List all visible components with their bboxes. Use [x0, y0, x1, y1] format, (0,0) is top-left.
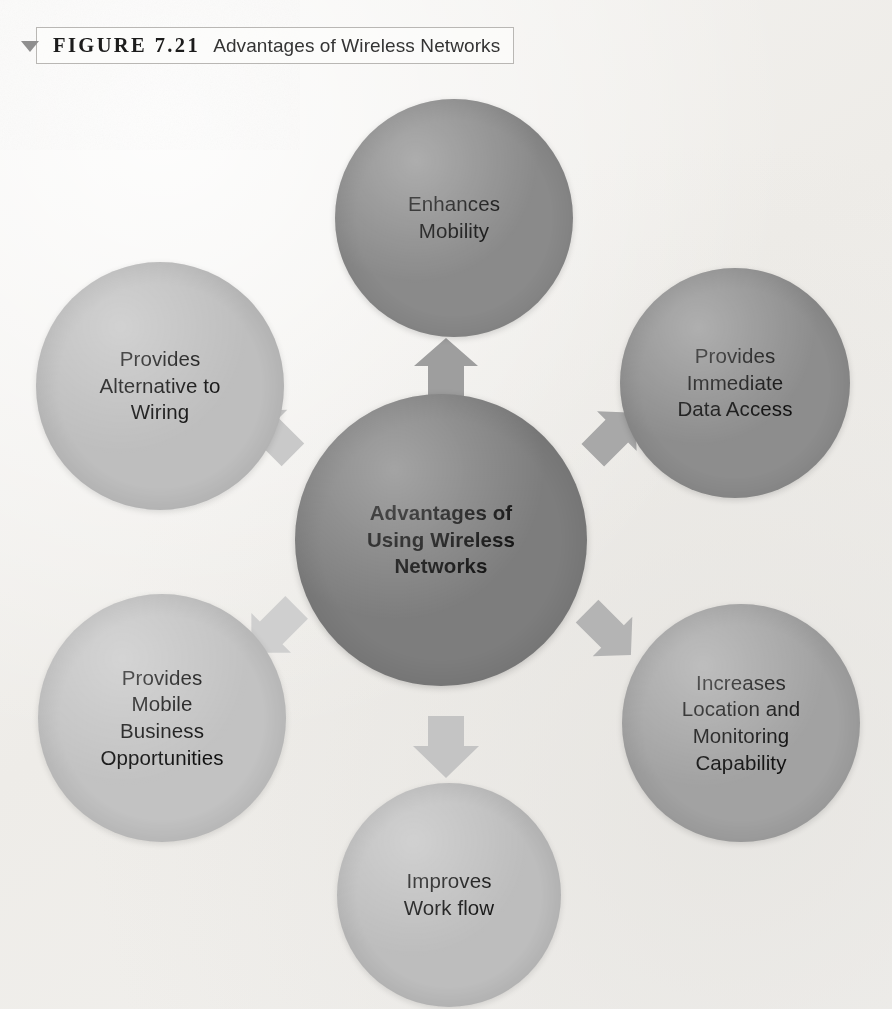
node-label: Advantages of Using Wireless Networks — [361, 500, 521, 580]
figure-page: FIGURE 7.21 Advantages of Wireless Netwo… — [0, 0, 892, 1009]
node-label: Provides Immediate Data Access — [671, 343, 798, 423]
node-enhances-mobility[interactable]: Enhances Mobility — [335, 99, 573, 337]
triangle-down-icon — [21, 41, 39, 52]
node-label: Provides Alternative to Wiring — [93, 346, 226, 426]
node-label: Improves Work flow — [398, 868, 501, 921]
node-provides-immediate-data-access[interactable]: Provides Immediate Data Access — [620, 268, 850, 498]
node-label: Enhances Mobility — [402, 191, 506, 244]
arrow-down-icon — [409, 712, 483, 780]
radial-diagram: Provides Alternative to Wiring Enhances … — [0, 0, 892, 1009]
node-label: Increases Location and Monitoring Capabi… — [676, 670, 807, 777]
node-center-advantages-of-using-wireless-networks[interactable]: Advantages of Using Wireless Networks — [295, 394, 587, 686]
node-label: Provides Mobile Business Opportunities — [94, 665, 229, 772]
arrow-up-icon — [412, 336, 480, 398]
arrow-down-right-icon — [572, 596, 646, 670]
node-provides-mobile-business-opportunities[interactable]: Provides Mobile Business Opportunities — [38, 594, 286, 842]
node-improves-work-flow[interactable]: Improves Work flow — [337, 783, 561, 1007]
node-provides-alternative-to-wiring[interactable]: Provides Alternative to Wiring — [36, 262, 284, 510]
node-increases-location-and-monitoring-capability[interactable]: Increases Location and Monitoring Capabi… — [622, 604, 860, 842]
